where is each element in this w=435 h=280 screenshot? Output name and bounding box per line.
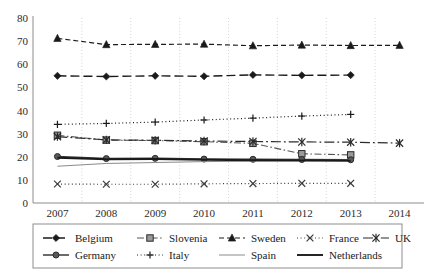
series-sweden <box>54 34 403 49</box>
marker-plus <box>54 121 61 128</box>
y-axis-ticks: 01020304050607080 <box>17 12 29 209</box>
marker-diamond <box>54 72 61 79</box>
legend-label: Spain <box>251 249 277 261</box>
marker-x <box>152 181 159 188</box>
x-tick-label: 2008 <box>95 207 118 219</box>
x-axis-ticks: 20072008200920102011201220132014 <box>46 207 411 219</box>
legend-item-belgium[interactable]: Belgium <box>43 232 113 244</box>
marker-plus <box>249 115 256 122</box>
marker-diamond <box>152 72 159 79</box>
legend-label: Germany <box>75 249 116 261</box>
legend-label: France <box>329 232 359 244</box>
legend-label: Italy <box>169 249 190 261</box>
marker-diamond <box>200 73 207 80</box>
marker-x <box>347 180 354 187</box>
y-tick-label: 20 <box>17 151 29 163</box>
legend-label: Belgium <box>75 232 113 244</box>
legend-item-uk[interactable]: UK <box>363 232 411 244</box>
series-italy <box>54 111 354 128</box>
marker-plus <box>200 116 207 123</box>
legend-item-germany[interactable]: Germany <box>43 249 116 261</box>
series-belgium <box>54 71 354 80</box>
y-tick-label: 60 <box>17 58 29 70</box>
legend: BelgiumSloveniaSwedenFranceUKGermanyItal… <box>33 224 411 268</box>
marker-plus <box>347 111 354 118</box>
marker-diamond <box>298 72 305 79</box>
marker-circle <box>53 252 59 258</box>
x-tick-label: 2014 <box>389 207 412 219</box>
line-chart: 0102030405060708020072008200920102011201… <box>0 0 435 280</box>
legend-item-slovenia[interactable]: Slovenia <box>137 232 208 244</box>
marker-diamond <box>347 72 354 79</box>
chart-svg: 0102030405060708020072008200920102011201… <box>0 0 435 280</box>
legend-item-spain[interactable]: Spain <box>219 249 277 261</box>
legend-label: Sweden <box>251 232 286 244</box>
legend-item-sweden[interactable]: Sweden <box>219 232 286 244</box>
y-tick-label: 30 <box>17 128 29 140</box>
legend-item-france[interactable]: France <box>297 232 359 244</box>
x-tick-label: 2009 <box>144 207 167 219</box>
legend-item-italy[interactable]: Italy <box>137 249 190 261</box>
y-tick-label: 40 <box>17 105 29 117</box>
y-tick-label: 10 <box>17 174 29 186</box>
marker-diamond <box>103 73 110 80</box>
y-tick-label: 80 <box>17 12 29 24</box>
marker-square <box>147 235 153 241</box>
marker-diamond <box>249 71 256 78</box>
x-tick-label: 2010 <box>193 207 216 219</box>
legend-box <box>33 224 402 268</box>
legend-label: Slovenia <box>169 232 208 244</box>
marker-triangle <box>54 34 61 41</box>
marker-plus <box>152 118 159 125</box>
marker-x <box>250 180 257 187</box>
marker-plus <box>298 112 305 119</box>
y-tick-label: 0 <box>23 197 29 209</box>
marker-star <box>298 138 305 146</box>
marker-diamond <box>52 234 59 241</box>
series-path <box>57 38 399 45</box>
marker-plus <box>146 251 153 258</box>
x-tick-label: 2012 <box>291 207 313 219</box>
x-tick-label: 2013 <box>340 207 363 219</box>
marker-square <box>299 151 305 157</box>
marker-star <box>372 234 379 242</box>
y-tick-label: 70 <box>17 35 29 47</box>
series-france <box>54 180 354 188</box>
y-tick-label: 50 <box>17 81 29 93</box>
marker-x <box>54 181 61 188</box>
marker-plus <box>103 120 110 127</box>
x-tick-label: 2007 <box>46 207 69 219</box>
legend-label: UK <box>395 232 411 244</box>
legend-label: Netherlands <box>329 249 382 261</box>
legend-item-netherlands[interactable]: Netherlands <box>297 249 382 261</box>
x-tick-label: 2011 <box>242 207 264 219</box>
